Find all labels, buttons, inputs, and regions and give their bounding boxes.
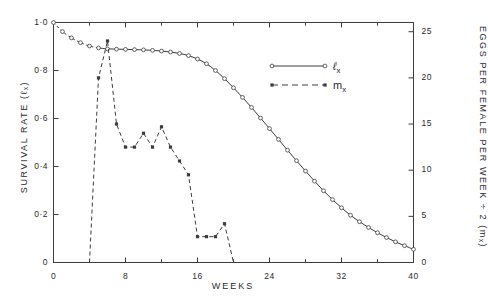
data-series-group: [52, 21, 416, 263]
y-tick-label-5: 1·0: [14, 17, 48, 27]
axis-frame: [54, 23, 414, 263]
y-tick-label-4: 0·8: [14, 65, 48, 75]
y2-tick-label-2: 10: [422, 164, 432, 174]
series-mx: [90, 39, 234, 262]
y-axis-right-title: EGGS PER FEMALE PER WEEK ÷ 2 (mₓ): [478, 17, 488, 257]
y-tick-label-1: 0·2: [14, 209, 48, 219]
x-tick-label-3: 24: [250, 271, 290, 281]
legend-sample-lines: [270, 64, 327, 87]
y2-tick-label-5: 25: [422, 26, 432, 36]
x-tick-label-1: 8: [106, 271, 146, 281]
legend-label-mx: mx: [333, 79, 346, 94]
x-axis-title: WEEKS: [0, 281, 466, 291]
y2-tick-label-3: 15: [422, 118, 432, 128]
x-tick-label-2: 16: [178, 271, 218, 281]
y-tick-label-2: 0·4: [14, 161, 48, 171]
y2-tick-label-0: 0: [422, 257, 427, 267]
x-tick-label-0: 0: [34, 271, 74, 281]
y2-tick-label-1: 5: [422, 210, 427, 220]
y-tick-label-3: 0·6: [14, 113, 48, 123]
x-tick-label-4: 32: [322, 271, 362, 281]
legend-label-lx: ℓx: [333, 60, 341, 75]
y-tick-label-0: 0: [14, 257, 48, 267]
axis-ticks: [54, 23, 414, 263]
x-tick-label-5: 40: [394, 271, 434, 281]
series-lx: [52, 21, 416, 252]
y2-tick-label-4: 20: [422, 72, 432, 82]
